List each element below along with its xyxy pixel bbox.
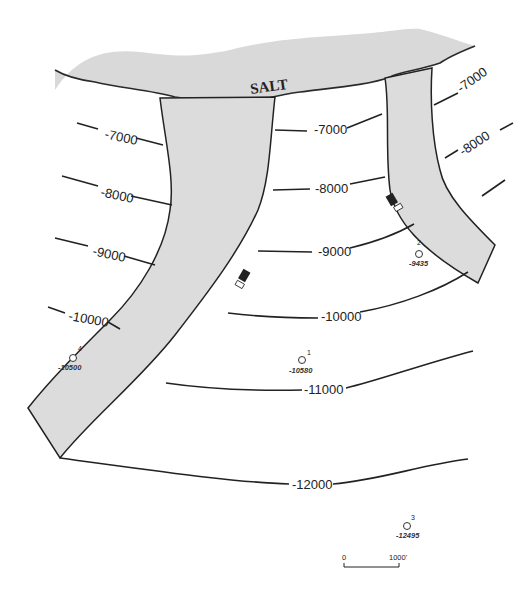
fault-left: [28, 97, 275, 458]
svg-text:-9435: -9435: [409, 259, 429, 268]
contour-label: -11000: [304, 382, 344, 397]
contour-label: -9000: [318, 244, 351, 259]
contour-label: -10000: [67, 308, 109, 330]
svg-text:-10500: -10500: [58, 363, 82, 372]
contour-label: -10000: [321, 309, 361, 324]
svg-text:4: 4: [78, 345, 82, 352]
svg-text:-12495: -12495: [396, 531, 420, 540]
contour-label: -8000: [456, 128, 492, 159]
fault-block-left: [235, 269, 250, 289]
contour-label: -7000: [454, 64, 490, 95]
contour-label: -9000: [91, 243, 127, 265]
svg-text:2: 2: [417, 239, 421, 246]
contour-label: -7000: [314, 122, 347, 137]
well-1: 1 -10580: [289, 349, 313, 375]
structure-map: SALT -7000 -7000 -7000 -8000 -8000: [0, 0, 531, 598]
scale-bar: 0 1000': [342, 553, 408, 567]
contour-label: -7000: [103, 126, 139, 148]
svg-text:1: 1: [307, 349, 311, 356]
svg-text:0: 0: [342, 553, 346, 562]
svg-text:3: 3: [411, 514, 415, 521]
contour-label: -8000: [99, 184, 135, 206]
svg-text:-10580: -10580: [289, 366, 313, 375]
contours: -7000 -7000 -7000 -8000 -8000 -8000 -900…: [48, 64, 513, 492]
svg-text:1000': 1000': [389, 553, 408, 562]
well-3: 3 -12495: [396, 514, 420, 540]
contour-label: -8000: [315, 181, 348, 196]
contour-label: -12000: [292, 477, 332, 492]
fault-right: [385, 68, 495, 283]
